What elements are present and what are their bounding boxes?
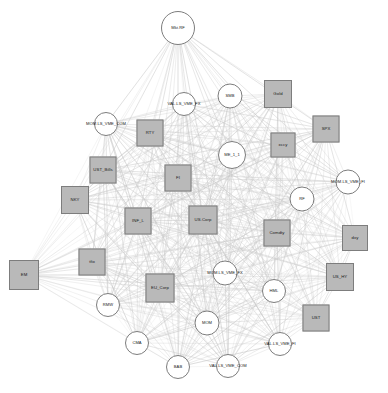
graph-node-label: Mkt.RF: [171, 26, 185, 30]
graph-node-label: RF: [299, 197, 305, 201]
graph-node-inf-l[interactable]: INF_L: [125, 208, 152, 235]
graph-node-label: EM: [21, 273, 28, 277]
graph-node-label: US.Corp: [195, 218, 212, 222]
graph-node-label: BAB: [174, 365, 182, 369]
graph-node-rty[interactable]: RTY: [137, 120, 164, 147]
graph-node-bab[interactable]: BAB: [166, 355, 190, 379]
graph-node-label: RMW: [103, 303, 113, 307]
graph-node-rf[interactable]: RF: [290, 187, 315, 212]
graph-node-label: Comdty: [269, 231, 284, 235]
graph-node-label: VAL.LS_VME_FI: [264, 342, 295, 346]
graph-node-dxy[interactable]: dxy: [342, 225, 368, 251]
graph-node-label: MOM: [202, 321, 212, 325]
graph-node-nky[interactable]: NKY: [61, 186, 89, 214]
graph-node-cma[interactable]: CMA: [125, 331, 149, 355]
graph-node-val-ls-vme-com[interactable]: VAL.LS_VME_COM: [216, 354, 240, 378]
graph-node-label: HML: [270, 289, 279, 293]
graph-node-ust[interactable]: UST: [303, 305, 330, 332]
graph-node-val-ls-vme-fx[interactable]: VAL.LS_VME_FX: [172, 92, 196, 116]
graph-node-us-hy[interactable]: US_HY: [326, 263, 354, 291]
graph-node-smb[interactable]: SMB: [218, 84, 243, 109]
graph-node-xccy[interactable]: xccy: [271, 133, 296, 158]
graph-node-label: RTY: [146, 131, 155, 135]
graph-node-mkt-rf[interactable]: Mkt.RF: [161, 11, 195, 45]
graph-node-tfix[interactable]: tfix: [79, 249, 106, 276]
graph-node-comdty[interactable]: Comdty: [264, 220, 291, 247]
graph-node-em[interactable]: EM: [9, 260, 39, 290]
graph-node-spx[interactable]: SPX: [313, 116, 340, 143]
graph-node-label: VAL.LS_VME_FX: [168, 102, 201, 106]
graph-node-fi[interactable]: FI: [165, 165, 192, 192]
graph-node-label: MOM.LS_VME_FX: [207, 271, 242, 275]
graph-node-label: dxy: [352, 236, 359, 240]
graph-node-label: xccy: [279, 143, 288, 147]
graph-node-label: EU_Corp: [151, 286, 169, 290]
graph-node-label: UST_Bills: [93, 168, 112, 172]
graph-node-val-ls-vme-fi[interactable]: VAL.LS_VME_FI: [268, 332, 292, 356]
graph-node-label: NKY: [71, 198, 80, 202]
graph-node-us-corp[interactable]: US.Corp: [189, 206, 218, 235]
graph-node-label: SPX: [322, 127, 331, 131]
graph-node-label: ME_1_1: [224, 153, 240, 157]
graph-node-label: MOM.LS_VME_FI: [331, 180, 365, 184]
graph-node-mom-ls-vme-fx[interactable]: MOM.LS_VME_FX: [213, 261, 238, 286]
graph-node-rmw[interactable]: RMW: [96, 293, 120, 317]
graph-node-label: SMB: [225, 94, 234, 98]
network-graph: Mkt.RFVAL.LS_VME_FXSMBGoldMOM.LS_VME_COM…: [0, 0, 388, 393]
graph-node-mom-ls-vme-fi[interactable]: MOM.LS_VME_FI: [336, 170, 361, 195]
graph-node-label: VAL.LS_VME_COM: [209, 364, 246, 368]
graph-node-label: INF_L: [132, 219, 144, 223]
graph-node-eu-corp[interactable]: EU_Corp: [146, 274, 175, 303]
node-layer: Mkt.RFVAL.LS_VME_FXSMBGoldMOM.LS_VME_COM…: [0, 0, 388, 393]
graph-node-gold[interactable]: Gold: [264, 80, 292, 108]
graph-node-label: tfix: [89, 260, 95, 264]
graph-node-label: FI: [176, 176, 180, 180]
graph-node-label: US_HY: [333, 275, 348, 279]
graph-node-mom[interactable]: MOM: [195, 311, 220, 336]
graph-node-label: CMA: [132, 341, 141, 345]
graph-node-label: Gold: [273, 92, 282, 96]
graph-node-me-1-1[interactable]: ME_1_1: [218, 141, 246, 169]
graph-node-label: MOM.LS_VME_COM: [86, 122, 126, 126]
graph-node-ust-bills[interactable]: UST_Bills: [90, 157, 117, 184]
graph-node-hml[interactable]: HML: [262, 279, 286, 303]
graph-node-label: UST: [312, 316, 321, 320]
graph-node-mom-ls-vme-com[interactable]: MOM.LS_VME_COM: [94, 112, 118, 136]
